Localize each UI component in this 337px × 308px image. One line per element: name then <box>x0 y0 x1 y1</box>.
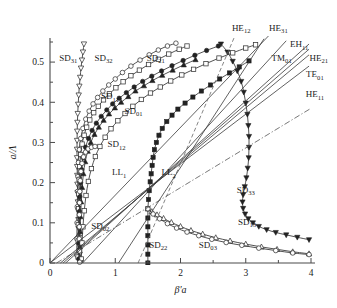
data-point <box>244 176 249 181</box>
data-point <box>146 62 150 66</box>
data-point <box>241 206 246 211</box>
data-point <box>80 142 84 146</box>
data-point <box>227 71 231 75</box>
chart-svg: 0123400.10.20.30.40.5β′aa/Λ SD31SD32SD11… <box>0 0 337 308</box>
data-point <box>146 197 150 201</box>
data-point <box>176 107 180 111</box>
data-point <box>84 125 88 129</box>
curve-label-he12: HE12 <box>232 23 251 35</box>
data-point <box>93 154 97 158</box>
data-point <box>167 52 171 56</box>
data-point <box>181 58 185 62</box>
curve-label-sd01: SD01 <box>124 106 142 118</box>
x-tick-label: 2 <box>178 268 183 278</box>
series-line <box>148 209 309 254</box>
data-point <box>80 50 85 55</box>
data-point <box>169 79 173 83</box>
data-point <box>93 144 98 149</box>
data-point <box>156 48 161 53</box>
data-point <box>81 42 86 47</box>
data-point <box>160 126 164 130</box>
y-tick-label: 0.2 <box>32 178 44 188</box>
data-point <box>129 74 133 78</box>
data-point <box>78 178 83 183</box>
data-point <box>91 102 96 107</box>
data-point <box>217 56 221 60</box>
dispersion-chart-figure: 0123400.10.20.30.40.5β′aa/Λ SD31SD32SD11… <box>0 0 337 308</box>
data-point <box>208 83 212 87</box>
data-point <box>77 84 82 89</box>
data-point <box>81 155 86 160</box>
x-tick-label: 0 <box>48 268 53 278</box>
data-point <box>82 209 86 213</box>
data-point <box>79 169 84 174</box>
curve-label-eh11: EH11 <box>290 39 308 51</box>
data-point <box>78 66 83 71</box>
data-point <box>246 156 251 161</box>
data-point <box>185 44 189 48</box>
data-point <box>230 59 235 64</box>
data-point <box>75 111 80 116</box>
data-point <box>77 212 82 217</box>
data-point <box>273 248 278 253</box>
data-point <box>77 189 82 194</box>
series-sd03 <box>146 206 312 256</box>
y-tick-label: 0.4 <box>32 98 44 108</box>
data-point <box>75 129 80 134</box>
data-point <box>224 240 229 245</box>
data-point <box>106 83 111 88</box>
series-line <box>221 44 309 240</box>
data-point <box>148 180 152 184</box>
data-point <box>257 246 262 251</box>
data-point <box>240 243 245 248</box>
curve-label-he21: HE21 <box>310 53 329 65</box>
data-point <box>80 161 85 166</box>
data-point <box>235 69 240 74</box>
data-point <box>98 144 102 148</box>
data-point <box>193 53 197 57</box>
data-point <box>191 67 195 71</box>
data-point <box>77 260 82 265</box>
data-point <box>113 77 118 82</box>
data-point <box>290 251 295 256</box>
curve-label-sd02: SD02 <box>91 221 109 233</box>
data-point <box>165 119 169 123</box>
series-line <box>50 66 309 263</box>
data-point <box>114 86 118 90</box>
curve-label-sd22: SD22 <box>149 240 167 252</box>
y-axis-title: a/Λ <box>7 146 18 160</box>
series-eh11 <box>83 41 287 263</box>
curve-label-sd11: SD11 <box>101 91 119 103</box>
data-point <box>204 48 208 52</box>
x-tick-label: 4 <box>309 268 314 278</box>
data-point <box>146 225 150 229</box>
data-point <box>120 70 125 75</box>
data-point <box>154 140 158 144</box>
data-point <box>76 93 81 98</box>
data-point <box>109 127 113 131</box>
data-point <box>239 79 244 84</box>
series-line <box>83 41 287 263</box>
data-point <box>146 252 150 256</box>
series-layer <box>50 0 312 265</box>
data-point <box>94 121 98 125</box>
curve-label-he11: HE11 <box>306 89 324 101</box>
data-point <box>150 74 154 78</box>
data-point <box>246 124 251 129</box>
data-point <box>159 69 163 73</box>
data-point <box>152 148 156 152</box>
x-axis-title: β′a <box>173 284 186 295</box>
data-point <box>82 133 86 137</box>
data-point <box>87 109 92 114</box>
data-point <box>241 90 246 95</box>
data-point <box>86 136 90 140</box>
curve-label-sd31: SD31 <box>59 53 77 65</box>
data-point <box>138 58 143 63</box>
data-point <box>218 77 222 81</box>
data-point <box>204 61 208 65</box>
data-point <box>193 57 198 62</box>
data-point <box>244 46 248 50</box>
data-point <box>165 44 170 49</box>
curve-label-sd21: SD21 <box>147 53 165 65</box>
curve-label-sd03: SD03 <box>199 240 218 252</box>
